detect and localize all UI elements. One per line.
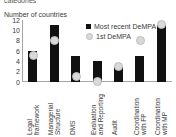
x-axis-tick-label: Legal framework bbox=[26, 85, 40, 135]
y-axis-tick-label: 10 bbox=[2, 27, 20, 34]
y-axis-tick-label: 0 bbox=[2, 79, 20, 86]
x-axis-tick-label: Coordination with FP bbox=[133, 85, 147, 135]
legend-item-first-dempa: 1st DeMPA bbox=[86, 32, 156, 41]
y-axis-tick-label: 2 bbox=[2, 68, 20, 75]
legend-label-first-dempa: 1st DeMPA bbox=[96, 33, 131, 40]
bar bbox=[50, 25, 59, 82]
y-axis-line bbox=[22, 20, 23, 82]
data-point-marker bbox=[114, 62, 123, 71]
y-axis-tick-label: 4 bbox=[2, 58, 20, 65]
chart-legend: Most recent DeMPA 1st DeMPA bbox=[86, 22, 156, 42]
x-axis-tick-label: Managerial Structure bbox=[47, 85, 61, 135]
data-point-marker bbox=[29, 51, 38, 60]
data-point-marker bbox=[72, 72, 81, 81]
cropped-heading-text: categories bbox=[4, 0, 36, 3]
x-axis-tick-label: Audit bbox=[111, 85, 118, 135]
y-axis-tick-label: 12 bbox=[2, 17, 20, 24]
y-axis-tick-label: 8 bbox=[2, 37, 20, 44]
y-axis-tick-label: 6 bbox=[2, 48, 20, 55]
bar bbox=[157, 25, 166, 82]
legend-item-most-recent: Most recent DeMPA bbox=[86, 22, 156, 31]
legend-label-most-recent: Most recent DeMPA bbox=[94, 23, 156, 30]
square-marker-icon bbox=[86, 24, 91, 29]
x-axis-tick-label: Coordination with MP bbox=[154, 85, 168, 135]
x-axis-tick-label: Evaluation and Reporting bbox=[90, 85, 104, 135]
chart-container: categories Number of countries 121086420… bbox=[0, 0, 176, 137]
bar bbox=[135, 56, 144, 82]
circle-marker-icon bbox=[86, 33, 93, 40]
x-axis-tick-label: DMS bbox=[69, 85, 76, 135]
data-point-marker bbox=[50, 36, 59, 45]
